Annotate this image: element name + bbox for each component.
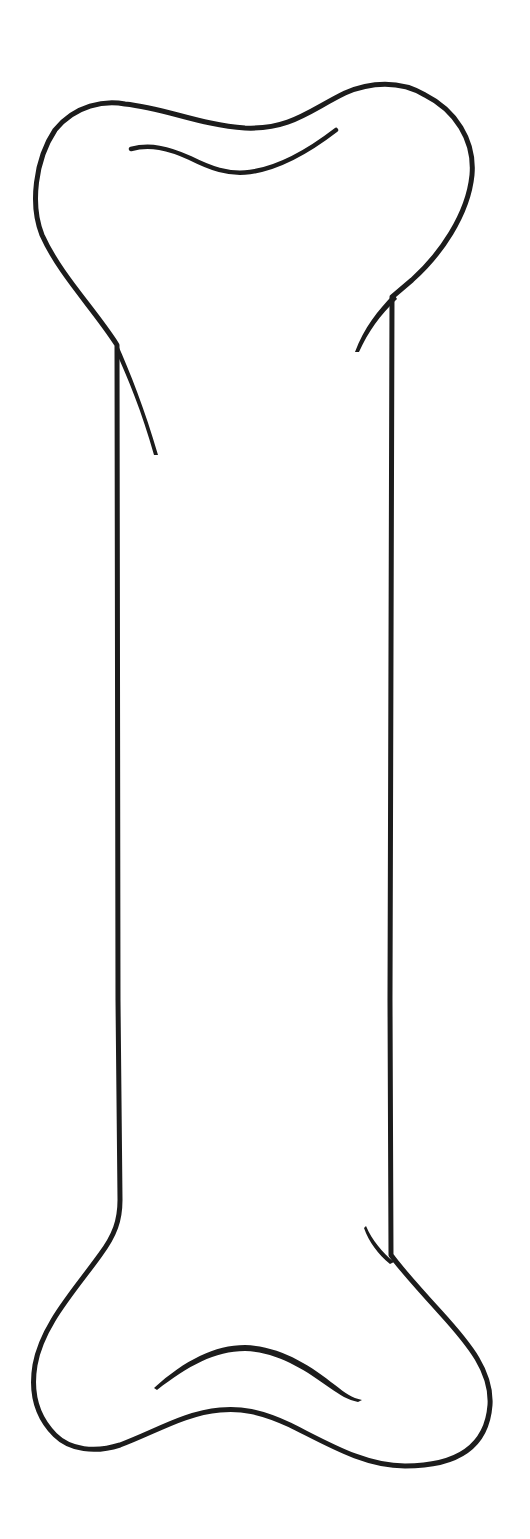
bone-drawing-canvas [0, 0, 530, 1539]
bone-icon [0, 0, 530, 1539]
bone-outline [34, 84, 491, 1466]
